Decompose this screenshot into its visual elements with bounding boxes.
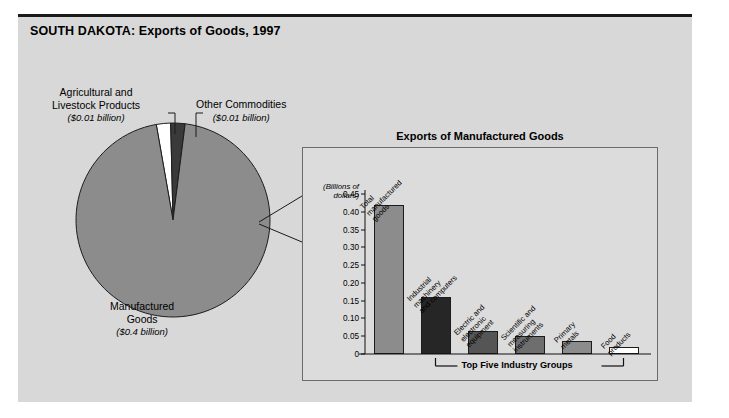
inset-title: Exports of Manufactured Goods (302, 130, 658, 142)
axis-lines (303, 148, 659, 382)
chart-page: SOUTH DAKOTA: Exports of Goods, 1997 Agr… (0, 0, 729, 418)
inset-panel: (Billions of dollars) 00.050.100.150.200… (302, 147, 658, 381)
plot-area: 00.050.100.150.200.250.300.350.400.45 To… (303, 148, 659, 382)
bracket-label: Top Five Industry Groups (462, 360, 573, 370)
